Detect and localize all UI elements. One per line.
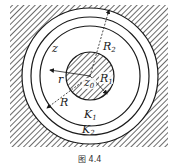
label-z: z [51, 42, 58, 55]
annulus-diagram: z R2 r R1 z0 R K1 K2 图 4.4 [0, 0, 172, 167]
label-r: r [58, 73, 64, 86]
figure-caption: 图 4.4 [78, 155, 101, 164]
label-R: R [59, 96, 68, 109]
